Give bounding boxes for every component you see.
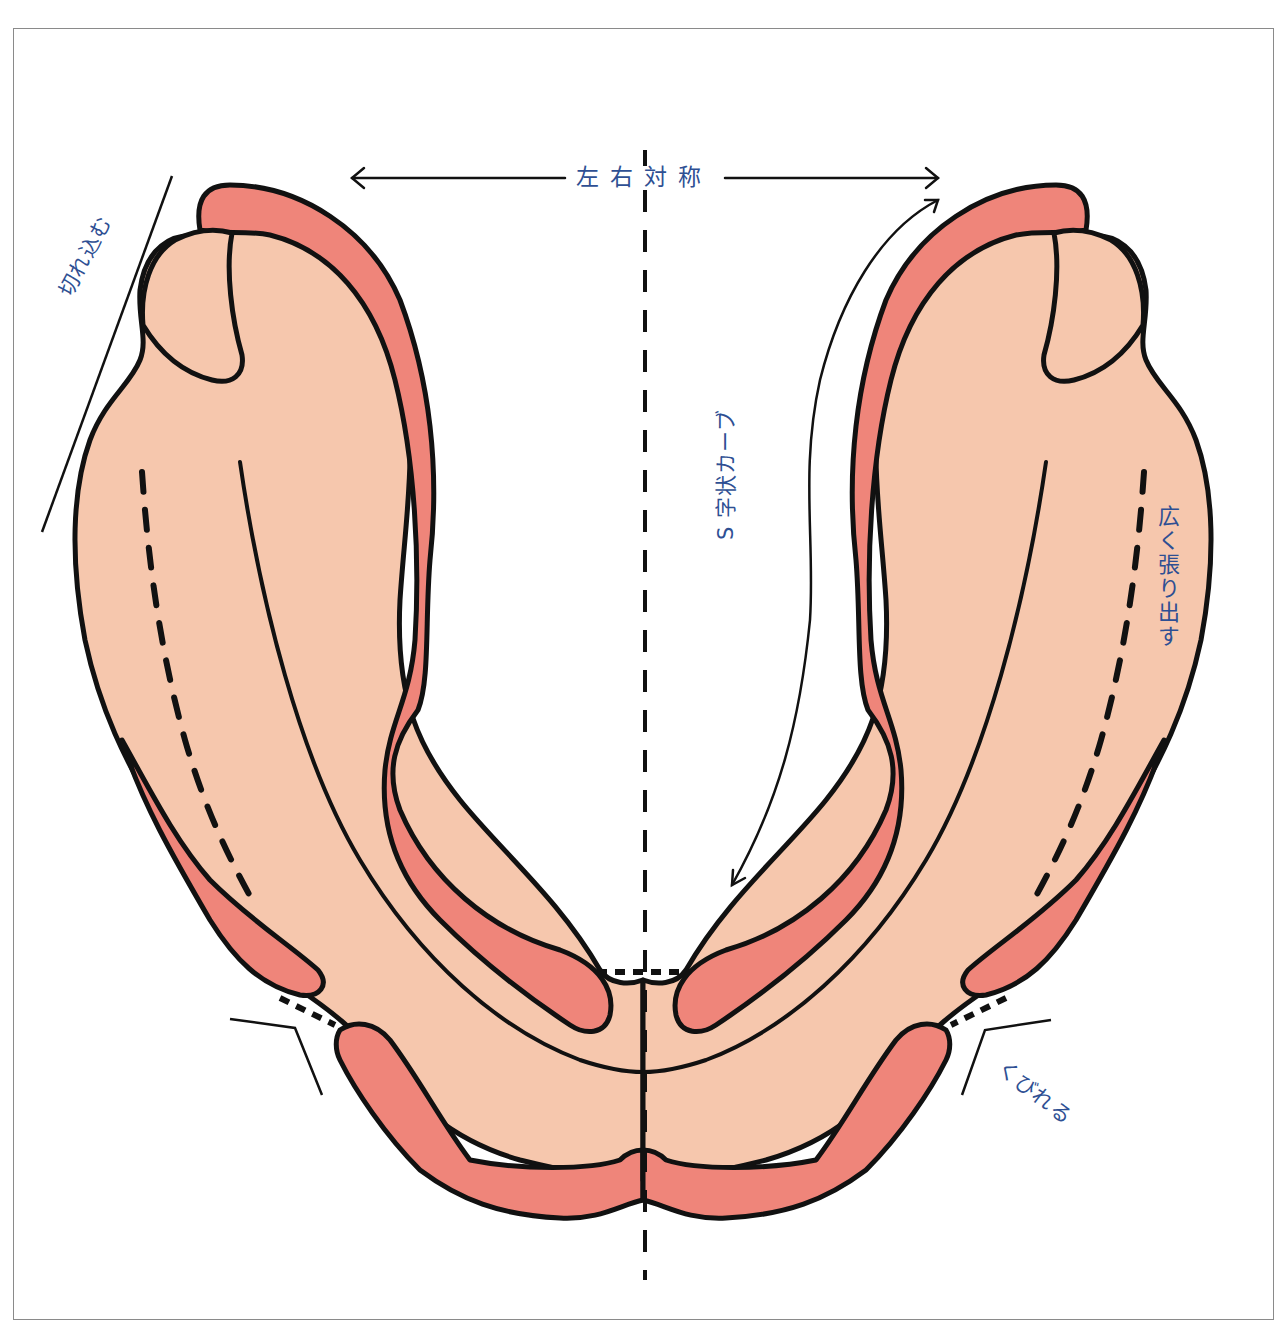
right-half — [643, 185, 1211, 1218]
s-curve-label: S 字状カーブ — [716, 409, 737, 540]
left-half — [75, 185, 643, 1218]
denture-diagram — [0, 0, 1283, 1341]
expand-label: 広く張り出す — [1155, 505, 1177, 649]
symmetry-label: 左右対称 — [574, 166, 714, 189]
